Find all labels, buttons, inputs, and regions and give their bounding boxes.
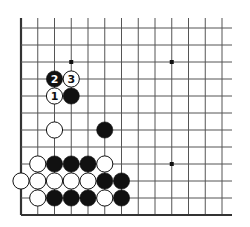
stone-disc xyxy=(63,173,79,189)
white-stone: 3 xyxy=(63,71,79,87)
stone-disc xyxy=(46,173,62,189)
go-board: 231 xyxy=(0,0,250,227)
black-stone xyxy=(80,190,96,206)
white-stone xyxy=(46,173,62,189)
stone-disc xyxy=(30,173,46,189)
star-point-icon xyxy=(170,60,174,64)
black-stone xyxy=(97,122,113,138)
black-stone xyxy=(63,156,79,172)
black-stone xyxy=(63,190,79,206)
white-stone xyxy=(46,122,62,138)
stone-disc xyxy=(46,190,62,206)
stone-disc xyxy=(113,190,129,206)
white-stone xyxy=(30,156,46,172)
white-stone xyxy=(13,173,29,189)
white-stone: 1 xyxy=(46,88,62,104)
stone-disc xyxy=(80,173,96,189)
stone-disc xyxy=(30,190,46,206)
move-number-label: 1 xyxy=(51,90,59,103)
black-stone xyxy=(46,156,62,172)
stone-disc xyxy=(46,122,62,138)
stone-disc xyxy=(80,190,96,206)
white-stone xyxy=(30,190,46,206)
white-stone xyxy=(80,173,96,189)
move-number-label: 2 xyxy=(51,73,59,86)
stone-disc xyxy=(113,173,129,189)
white-stone xyxy=(97,190,113,206)
black-stone xyxy=(63,88,79,104)
stone-disc xyxy=(80,156,96,172)
stone-disc xyxy=(30,156,46,172)
white-stone xyxy=(30,173,46,189)
stone-disc xyxy=(63,88,79,104)
stone-disc xyxy=(97,173,113,189)
black-stone xyxy=(113,190,129,206)
stone-disc xyxy=(46,156,62,172)
stone-disc xyxy=(97,156,113,172)
black-stone xyxy=(46,190,62,206)
stone-disc xyxy=(63,190,79,206)
move-number-label: 3 xyxy=(67,73,75,86)
white-stone xyxy=(97,156,113,172)
star-point-icon xyxy=(170,162,174,166)
star-point-icon xyxy=(69,60,73,64)
stone-disc xyxy=(13,173,29,189)
stone-disc xyxy=(97,190,113,206)
white-stone xyxy=(63,173,79,189)
stone-disc xyxy=(97,122,113,138)
black-stone xyxy=(113,173,129,189)
stone-disc xyxy=(63,156,79,172)
black-stone: 2 xyxy=(46,71,62,87)
black-stone xyxy=(97,173,113,189)
black-stone xyxy=(80,156,96,172)
